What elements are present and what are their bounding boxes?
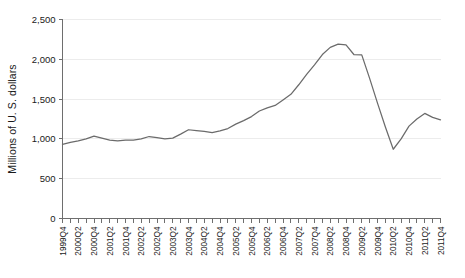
chart-container: 05001,0001,5002,0002,5001999Q42000Q22000…	[0, 0, 465, 278]
y-tick-label: 2,000	[32, 54, 56, 65]
x-tick-label: 2004Q4	[216, 226, 225, 256]
data-series-line	[63, 44, 441, 149]
x-tick-label: 2005Q2	[232, 226, 241, 256]
x-tick-label: 2001Q4	[122, 226, 131, 256]
x-tick-label: 2004Q2	[200, 226, 209, 256]
x-tick-label: 2001Q2	[106, 226, 115, 256]
y-tick-label: 1,000	[32, 133, 56, 144]
x-tick-label: 2002Q4	[153, 226, 162, 256]
x-tick-label: 2007Q4	[311, 226, 320, 256]
x-tick-label: 2009Q4	[374, 226, 383, 256]
y-axis-ticks: 05001,0001,5002,0002,500	[32, 14, 63, 224]
x-tick-label: 2011Q2	[421, 226, 430, 255]
x-tick-label: 2005Q4	[248, 226, 257, 256]
x-tick-label: 2003Q2	[169, 226, 178, 256]
x-tick-label: 2006Q4	[279, 226, 288, 256]
y-axis-title: Millions of U. S. dollars	[6, 64, 18, 173]
y-tick-label: 1,500	[32, 94, 56, 105]
x-tick-label: 2000Q2	[74, 226, 83, 256]
y-tick-label: 500	[40, 173, 56, 184]
x-tick-label: 2000Q4	[90, 226, 99, 256]
x-tick-label: 1999Q4	[59, 226, 68, 256]
x-tick-label: 2010Q2	[389, 226, 398, 256]
gridlines	[63, 20, 441, 179]
x-tick-label: 2008Q4	[342, 226, 351, 256]
x-tick-label: 2011Q4	[437, 226, 446, 255]
x-tick-label: 2002Q2	[137, 226, 146, 256]
x-tick-label: 2003Q4	[185, 226, 194, 256]
x-tick-label: 2009Q2	[358, 226, 367, 256]
y-tick-label: 2,500	[32, 14, 56, 25]
x-tick-label: 2006Q2	[263, 226, 272, 256]
x-axis-ticks: 1999Q42000Q22000Q42001Q22001Q42002Q22002…	[59, 219, 446, 256]
x-tick-label: 2007Q2	[295, 226, 304, 256]
x-tick-label: 2010Q4	[405, 226, 414, 256]
line-chart: 05001,0001,5002,0002,5001999Q42000Q22000…	[0, 0, 465, 278]
y-tick-label: 0	[50, 213, 55, 224]
x-tick-label: 2008Q2	[326, 226, 335, 256]
